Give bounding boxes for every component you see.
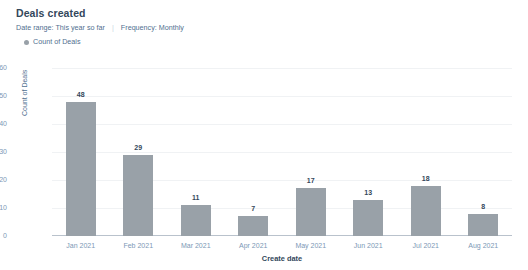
bar-slot: 11 — [167, 68, 225, 236]
deals-created-chart-card: Deals created Date range: This year so f… — [0, 0, 528, 270]
bar[interactable] — [66, 102, 96, 236]
bar-value-label: 13 — [364, 188, 372, 197]
y-axis-tick-label: 0 — [0, 232, 7, 240]
bar[interactable] — [123, 155, 153, 236]
bar-slot: 29 — [110, 68, 168, 236]
plot-area: 48291171713188 — [52, 68, 512, 236]
bar[interactable] — [468, 214, 498, 236]
bar-value-label: 7 — [251, 204, 255, 213]
chart-plot-wrapper: Count of Deals 48291171713188 Create dat… — [0, 0, 528, 270]
y-axis-tick-label: 60 — [0, 64, 7, 72]
bar[interactable] — [238, 216, 268, 236]
bar-slot: 48 — [52, 68, 110, 236]
bar-value-label: 48 — [77, 90, 85, 99]
bar-slot: 7 — [225, 68, 283, 236]
bar-slot: 17 — [282, 68, 340, 236]
x-axis-tick-label: Jan 2021 — [52, 241, 110, 250]
bar-slot: 18 — [397, 68, 455, 236]
bar-value-label: 18 — [422, 174, 430, 183]
y-axis-tick-label: 50 — [0, 92, 7, 100]
x-axis-tick-label: Apr 2021 — [225, 241, 283, 250]
bar[interactable] — [181, 205, 211, 236]
bar-slot: 8 — [455, 68, 513, 236]
x-axis-tick-label: Jul 2021 — [397, 241, 455, 250]
bar[interactable] — [296, 188, 326, 236]
bar-value-label: 11 — [192, 193, 199, 202]
x-axis-title: Create date — [52, 254, 512, 264]
y-axis-tick-label: 30 — [0, 148, 7, 156]
y-axis-tick-label: 10 — [0, 204, 7, 212]
bar-value-label: 8 — [481, 202, 485, 211]
x-axis-tick-label: Jun 2021 — [340, 241, 398, 250]
y-axis-tick-label: 20 — [0, 176, 7, 184]
x-axis-tick-label: Aug 2021 — [455, 241, 513, 250]
x-axis-tick-label: Mar 2021 — [167, 241, 225, 250]
bar[interactable] — [353, 200, 383, 236]
y-axis-title: Count of Deals — [20, 104, 30, 116]
bar-value-label: 29 — [134, 143, 142, 152]
x-axis-tick-label: May 2021 — [282, 241, 340, 250]
y-axis-tick-label: 40 — [0, 120, 7, 128]
bar-value-label: 17 — [307, 176, 315, 185]
bar-slot: 13 — [340, 68, 398, 236]
bar[interactable] — [411, 186, 441, 236]
x-axis-tick-label: Feb 2021 — [110, 241, 168, 250]
